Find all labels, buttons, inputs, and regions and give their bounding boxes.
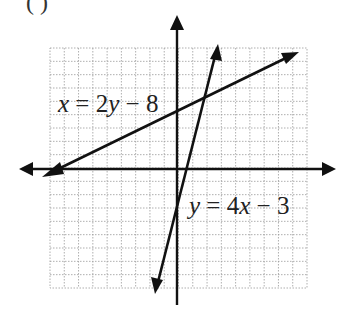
equation-label-2: y = 4x − 3 — [186, 192, 289, 219]
x-axis-left-arrow-icon — [19, 162, 33, 176]
line2-upper-arrow-icon — [210, 44, 222, 61]
y-axis-up-arrow-icon — [170, 15, 184, 30]
coordinate-graph: ( ) x = 2y − 8 y = 4x − 3 — [0, 0, 341, 310]
line1-upper-arrow-icon — [281, 52, 299, 64]
equation-label-1: x = 2y − 8 — [57, 90, 158, 117]
line2-lower-arrow-icon — [151, 277, 163, 294]
x-axis-right-arrow-icon — [322, 162, 336, 176]
cut-off-text-fragment: ( ) — [26, 0, 48, 15]
